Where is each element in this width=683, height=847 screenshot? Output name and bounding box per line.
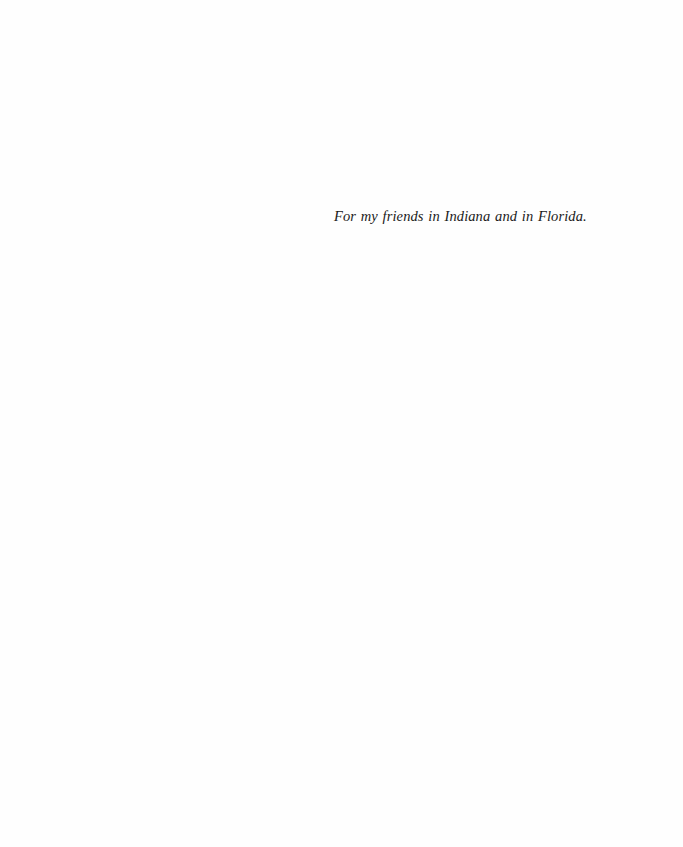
dedication-text: For my friends in Indiana and in Florida…: [334, 207, 587, 225]
book-page: For my friends in Indiana and in Florida…: [0, 0, 683, 847]
